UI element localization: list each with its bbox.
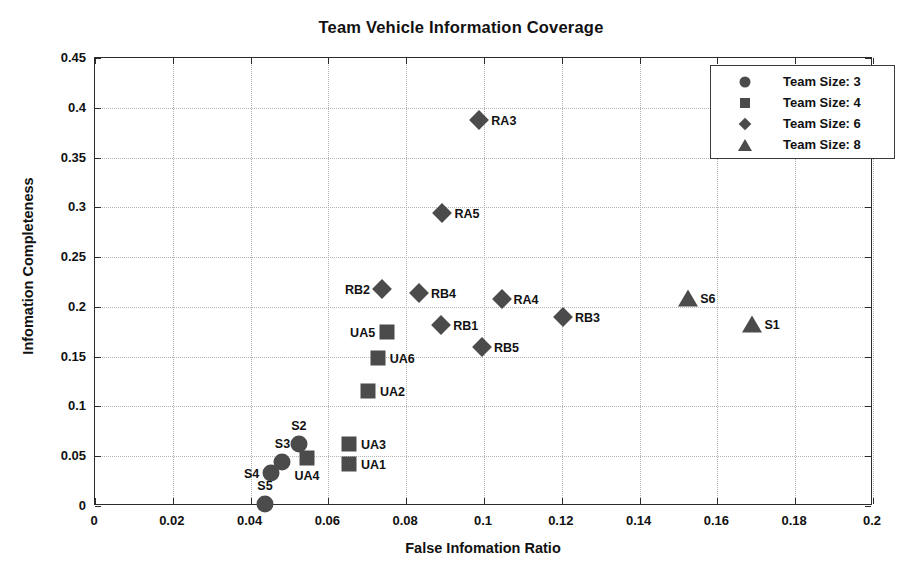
y-tick-label: 0.15 — [36, 348, 86, 363]
y-axis-tick — [95, 108, 101, 109]
data-point-s1 — [742, 316, 762, 333]
y-axis-tick — [95, 257, 101, 258]
point-label-s6: S6 — [700, 292, 715, 306]
y-axis-tick-right — [865, 307, 871, 308]
x-axis-tick-top — [173, 58, 174, 64]
x-axis-tick-top — [328, 58, 329, 64]
gridline-horizontal — [95, 307, 871, 308]
point-label-s2: S2 — [291, 419, 306, 433]
data-point-ua5 — [380, 324, 395, 339]
gridline-vertical — [328, 58, 329, 504]
x-axis-tick — [251, 498, 252, 504]
x-axis-tick — [640, 498, 641, 504]
x-axis-tick — [484, 498, 485, 504]
gridline-horizontal — [95, 406, 871, 407]
data-point-rb3 — [553, 307, 573, 327]
data-point-rb2 — [372, 279, 392, 299]
point-label-s1: S1 — [764, 318, 779, 332]
gridline-vertical — [406, 58, 407, 504]
y-axis-tick-right — [865, 207, 871, 208]
data-point-rb4 — [409, 284, 429, 304]
point-label-ra4: RA4 — [514, 293, 539, 307]
x-axis-tick — [873, 498, 874, 504]
x-tick-label: 0.1 — [474, 513, 492, 528]
point-label-ua5: UA5 — [350, 326, 375, 340]
x-tick-label: 0.12 — [548, 513, 573, 528]
legend-item-4[interactable]: Team Size: 8 — [711, 134, 894, 155]
point-label-ua4: UA4 — [294, 469, 319, 483]
point-label-ua6: UA6 — [390, 352, 415, 366]
y-axis-label: Infomation Completeness — [20, 116, 36, 416]
data-point-s2 — [290, 435, 307, 452]
data-point-ua6 — [370, 351, 385, 366]
data-point-rb1 — [431, 315, 451, 335]
y-tick-label: 0.2 — [36, 298, 86, 313]
x-axis-tick-top — [640, 58, 641, 64]
data-point-s5 — [256, 495, 273, 512]
gridline-vertical — [562, 58, 563, 504]
y-axis-tick — [95, 58, 101, 59]
point-label-ua3: UA3 — [361, 438, 386, 452]
y-axis-tick — [95, 207, 101, 208]
x-axis-tick-top — [251, 58, 252, 64]
x-axis-tick-top — [484, 58, 485, 64]
legend-label: Team Size: 3 — [783, 74, 861, 89]
gridline-horizontal — [95, 456, 871, 457]
x-tick-label: 0.04 — [237, 513, 262, 528]
x-axis-tick-top — [873, 58, 874, 64]
y-tick-label: 0 — [36, 498, 86, 513]
x-tick-label: 0.14 — [626, 513, 651, 528]
gridline-horizontal — [95, 357, 871, 358]
x-axis-tick — [328, 498, 329, 504]
y-tick-label: 0.4 — [36, 99, 86, 114]
gridline-vertical — [640, 58, 641, 504]
gridline-horizontal — [95, 207, 871, 208]
legend-item-1[interactable]: Team Size: 3 — [711, 71, 894, 92]
y-axis-tick-right — [865, 357, 871, 358]
legend-label: Team Size: 8 — [783, 137, 861, 152]
x-tick-label: 0.16 — [704, 513, 729, 528]
point-label-rb4: RB4 — [431, 287, 456, 301]
y-axis-tick — [95, 406, 101, 407]
data-point-ua4 — [300, 451, 315, 466]
point-label-ua2: UA2 — [380, 385, 405, 399]
chart-page: Team Vehicle Information Coverage S2S3S4… — [0, 0, 922, 580]
y-tick-label: 0.35 — [36, 149, 86, 164]
x-tick-label: 0.08 — [393, 513, 418, 528]
data-point-s6 — [678, 290, 698, 307]
legend-item-2[interactable]: Team Size: 4 — [711, 92, 894, 113]
point-label-ra5: RA5 — [454, 207, 479, 221]
x-axis-tick — [795, 498, 796, 504]
x-axis-label: False Infomation Ratio — [94, 540, 872, 556]
gridline-vertical — [251, 58, 252, 504]
x-tick-label: 0.18 — [782, 513, 807, 528]
y-axis-tick-right — [865, 257, 871, 258]
data-point-ua2 — [361, 383, 376, 398]
point-label-ra3: RA3 — [491, 114, 516, 128]
y-axis-tick-right — [865, 406, 871, 407]
y-axis-tick — [95, 456, 101, 457]
point-label-ua1: UA1 — [361, 458, 386, 472]
point-label-rb2: RB2 — [345, 283, 370, 297]
legend-label: Team Size: 6 — [783, 116, 861, 131]
y-axis-tick — [95, 357, 101, 358]
y-tick-label: 0.25 — [36, 249, 86, 264]
y-tick-label: 0.1 — [36, 398, 86, 413]
y-tick-label: 0.45 — [36, 50, 86, 65]
x-tick-label: 0 — [90, 513, 97, 528]
legend-item-3[interactable]: Team Size: 6 — [711, 113, 894, 134]
point-label-rb1: RB1 — [453, 319, 478, 333]
y-axis-tick-right — [865, 456, 871, 457]
point-label-rb3: RB3 — [575, 311, 600, 325]
x-axis-tick — [562, 498, 563, 504]
point-label-s3: S3 — [275, 437, 290, 451]
y-axis-tick — [95, 158, 101, 159]
x-tick-label: 0.06 — [315, 513, 340, 528]
y-axis-tick — [95, 307, 101, 308]
y-tick-label: 0.05 — [36, 448, 86, 463]
point-label-s5: S5 — [257, 479, 272, 493]
gridline-horizontal — [95, 257, 871, 258]
data-point-ua1 — [342, 457, 357, 472]
y-tick-label: 0.3 — [36, 199, 86, 214]
x-axis-tick-top — [406, 58, 407, 64]
